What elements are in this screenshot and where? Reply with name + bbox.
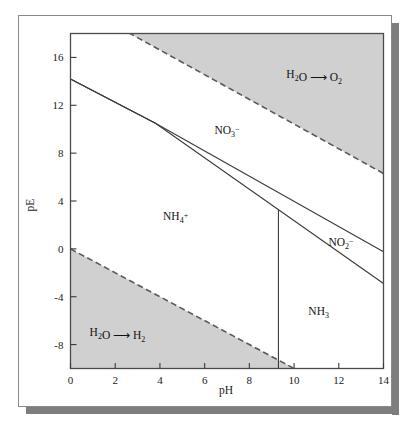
- x-tick-label: 2: [112, 374, 118, 386]
- x-tick-label: 12: [333, 374, 344, 386]
- nitrate-region-label: NO3−: [214, 124, 240, 139]
- shaded-instability-regions: [71, 1, 384, 417]
- x-tick-label: 6: [202, 374, 208, 386]
- x-tick-label: 10: [289, 374, 301, 386]
- y-axis-title: pE: [24, 199, 37, 212]
- x-tick-label: 0: [68, 374, 74, 386]
- ammonium-region-label: NH4+: [163, 210, 189, 225]
- y-tick-label: 16: [53, 51, 65, 63]
- plot-svg: 02468101214-8-40481216 H2O ⟶ O2H2O ⟶ H2N…: [0, 0, 416, 434]
- ammonia-region-label: NH3: [308, 305, 329, 320]
- y-tick-label: 4: [58, 195, 64, 207]
- pe-ph-diagram: 02468101214-8-40481216 H2O ⟶ O2H2O ⟶ H2N…: [0, 0, 416, 434]
- x-tick-label: 14: [378, 374, 390, 386]
- y-tick-label: -4: [54, 291, 64, 303]
- x-axis-title: pH: [219, 384, 233, 397]
- nitrite-region-label: NO2−: [328, 236, 354, 251]
- x-tick-label: 4: [157, 374, 163, 386]
- x-tick-label: 8: [247, 374, 253, 386]
- y-tick-label: 12: [53, 99, 64, 111]
- y-tick-label: -8: [54, 339, 64, 351]
- y-tick-label: 8: [58, 147, 64, 159]
- y-tick-label: 0: [58, 243, 64, 255]
